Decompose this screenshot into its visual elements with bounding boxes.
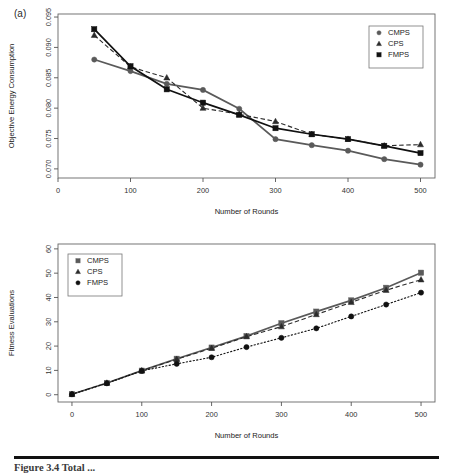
legend-label-fmps: FMPS — [388, 50, 409, 59]
data-point-fmps — [349, 314, 354, 319]
x-tick-label: 300 — [275, 410, 287, 419]
x-tick-label: 300 — [269, 186, 281, 195]
figure-container: (a) 01002003004005000.0700.0750.0800.085… — [0, 0, 453, 473]
chart-objective-energy-consumption: 01002003004005000.0700.0750.0800.0850.09… — [0, 0, 453, 230]
legend-label-fmps: FMPS — [87, 278, 108, 287]
legend-label-cps: CPS — [87, 267, 103, 276]
data-point-fmps — [104, 381, 109, 386]
data-point-fmps — [382, 143, 387, 148]
chart-fitness-evaluations: 01002003004005000102030405060Number of R… — [0, 232, 453, 452]
data-point-fmps — [244, 344, 249, 349]
x-tick-label: 500 — [414, 186, 426, 195]
data-point-fmps — [273, 126, 278, 131]
data-point-fmps — [92, 27, 97, 32]
data-point-fmps — [69, 392, 74, 397]
y-axis-title: Fitness Evaluations — [7, 290, 16, 356]
y-tick-label: 0.070 — [44, 160, 53, 179]
x-tick-label: 400 — [345, 410, 357, 419]
data-point-fmps — [279, 335, 284, 340]
x-tick-label: 400 — [342, 186, 354, 195]
x-tick-label: 200 — [205, 410, 217, 419]
data-point-cps — [418, 141, 424, 146]
y-tick-label: 60 — [44, 245, 53, 253]
y-tick-label: 0.075 — [44, 129, 53, 148]
data-point-fmps — [174, 361, 179, 366]
legend-marker-fmps — [76, 281, 80, 285]
y-tick-label: 0 — [44, 393, 53, 397]
y-tick-label: 0.080 — [44, 99, 53, 118]
data-point-cmps — [92, 57, 97, 62]
y-tick-label: 0.085 — [44, 69, 53, 88]
data-point-fmps — [384, 302, 389, 307]
data-point-fmps — [237, 112, 242, 117]
data-point-fmps — [128, 64, 133, 69]
caption-rule — [14, 456, 439, 459]
legend-label-cps: CPS — [388, 39, 404, 48]
data-point-cps — [418, 276, 424, 281]
x-axis-title: Number of Rounds — [215, 207, 279, 216]
x-tick-label: 100 — [124, 186, 136, 195]
y-tick-label: 20 — [44, 342, 53, 350]
data-point-cmps — [164, 81, 169, 86]
data-point-cps — [273, 118, 279, 123]
legend-marker-fmps — [377, 53, 381, 57]
y-tick-label: 0.090 — [44, 38, 53, 57]
x-tick-label: 0 — [70, 410, 74, 419]
figure-caption: Figure 3.4 Total ... — [14, 462, 444, 473]
data-point-fmps — [314, 326, 319, 331]
x-axis-title: Number of Rounds — [215, 431, 279, 440]
x-tick-label: 100 — [136, 410, 148, 419]
legend-marker-cmps — [76, 259, 80, 263]
data-point-cps — [164, 75, 170, 80]
x-tick-label: 200 — [197, 186, 209, 195]
y-axis-title: Objective Energy Consumption — [7, 44, 16, 149]
x-tick-label: 0 — [56, 186, 60, 195]
data-point-cps — [91, 32, 97, 37]
series-line-fmps — [72, 293, 421, 395]
data-point-fmps — [139, 368, 144, 373]
data-point-fmps — [309, 132, 314, 137]
data-point-fmps — [209, 355, 214, 360]
legend: CMPSCPSFMPS — [369, 26, 423, 68]
data-point-cmps — [200, 87, 205, 92]
data-point-fmps — [418, 150, 423, 155]
y-tick-label: 10 — [44, 366, 53, 374]
legend-label-cmps: CMPS — [388, 28, 410, 37]
x-tick-label: 500 — [415, 410, 427, 419]
data-point-cmps — [418, 162, 423, 167]
y-tick-label: 40 — [44, 293, 53, 301]
legend-label-cmps: CMPS — [87, 256, 109, 265]
data-point-cmps — [273, 137, 278, 142]
y-tick-label: 30 — [44, 318, 53, 326]
legend-marker-cmps — [377, 31, 381, 35]
data-point-cmps — [345, 148, 350, 153]
data-point-fmps — [164, 87, 169, 92]
data-point-cmps — [382, 157, 387, 162]
data-point-cmps — [418, 270, 423, 275]
y-tick-label: 0.095 — [44, 8, 53, 27]
data-point-fmps — [345, 137, 350, 142]
y-tick-label: 50 — [44, 269, 53, 277]
data-point-fmps — [418, 290, 423, 295]
legend: CMPSCPSFMPS — [68, 254, 122, 296]
data-point-fmps — [200, 100, 205, 105]
data-point-cmps — [309, 143, 314, 148]
